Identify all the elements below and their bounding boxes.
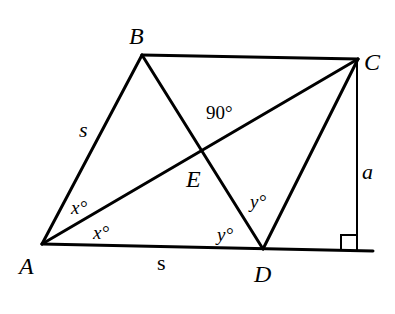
angle-label-BAE-x: x° (71, 198, 87, 217)
angle-label-ADE-y: y° (217, 225, 233, 244)
side-label-AB: s (79, 119, 88, 141)
vertex-label-D: D (254, 262, 271, 286)
segment-BD (142, 55, 263, 249)
side-label-AD: s (157, 252, 166, 274)
segment-BC (142, 55, 358, 59)
vertex-label-B: B (129, 24, 144, 48)
geometry-diagram (0, 0, 395, 314)
vertex-label-C: C (364, 50, 380, 74)
vertex-label-A: A (19, 254, 34, 278)
angle-label-EAD-x: x° (93, 223, 109, 242)
right-angle-marker (341, 235, 357, 251)
vertex-label-E: E (186, 167, 201, 191)
angle-label-E-90: 90° (206, 103, 233, 122)
height-label-a: a (362, 161, 373, 183)
angle-label-EDC-y: y° (250, 192, 266, 211)
baseline-AD-extended (42, 244, 373, 251)
